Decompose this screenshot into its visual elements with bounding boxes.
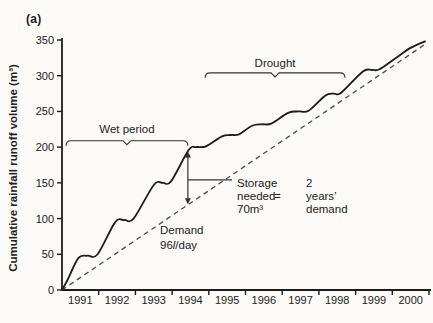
equals-sign: =	[274, 190, 281, 202]
y-tick-label: 150	[36, 177, 54, 189]
x-year-label: 1998	[325, 294, 349, 306]
y-axis-title: Cumulative rainfall runoff volume (m³)	[7, 64, 19, 272]
x-year-label: 2000	[398, 294, 422, 306]
wet-period-label: Wet period	[99, 123, 154, 135]
x-year-label: 1996	[252, 294, 276, 306]
storage-note-left-line: Storage	[237, 177, 277, 189]
wet-period-bracket	[66, 141, 188, 146]
cumulative-runoff-chart: 0501001502002503003501991199219931994199…	[0, 0, 433, 323]
demand-dashed-line	[62, 43, 427, 290]
x-year-label: 1994	[178, 294, 202, 306]
x-year-label: 1999	[362, 294, 386, 306]
storage-note-left-line: 70m³	[237, 203, 263, 215]
y-tick-label: 250	[36, 105, 54, 117]
x-year-label: 1997	[288, 294, 312, 306]
drought-label: Drought	[255, 57, 297, 69]
demand-note-line2: 96l/day	[160, 239, 197, 251]
x-year-label: 1995	[215, 294, 239, 306]
y-tick-label: 50	[42, 248, 54, 260]
figure-page: (a) 050100150200250300350199119921993199…	[0, 0, 433, 323]
y-tick-label: 350	[36, 34, 54, 46]
storage-note-right-line: 2	[306, 177, 312, 189]
panel-label: (a)	[26, 12, 42, 26]
storage-note-right-line: demand	[306, 203, 348, 215]
storage-note-right-line: years’	[306, 190, 337, 202]
drought-bracket	[205, 73, 345, 78]
y-tick-label: 200	[36, 141, 54, 153]
x-year-label: 1993	[142, 294, 166, 306]
x-year-label: 1992	[105, 294, 129, 306]
demand-note-line1: Demand	[160, 224, 203, 236]
y-tick-label: 300	[36, 70, 54, 82]
y-tick-label: 100	[36, 213, 54, 225]
y-tick-label: 0	[48, 284, 54, 296]
x-year-label: 1991	[68, 294, 92, 306]
storage-note-left-line: needed	[237, 190, 275, 202]
